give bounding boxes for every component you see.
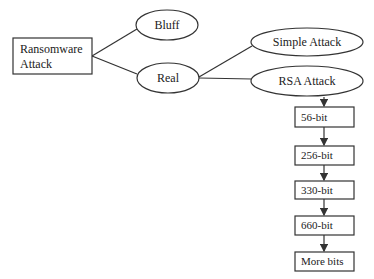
node-real: Real <box>137 63 199 93</box>
node-256-bit-label: 256-bit <box>301 149 333 161</box>
node-simple-attack: Simple Attack <box>251 28 363 56</box>
edge-root-to-real <box>92 56 137 74</box>
edge-root-to-bluff <box>92 29 137 56</box>
ransomware-attack-diagram: Ransomware Attack Bluff Real Simple Atta… <box>0 0 374 279</box>
node-ransomware-line2: Attack <box>20 57 52 71</box>
node-56-bit: 56-bit <box>295 107 354 127</box>
node-330-bit: 330-bit <box>295 181 354 199</box>
node-56-bit-label: 56-bit <box>301 111 327 123</box>
node-bluff: Bluff <box>136 10 198 40</box>
node-ransomware-line1: Ransomware <box>20 42 83 56</box>
node-real-label: Real <box>157 71 180 85</box>
node-bluff-label: Bluff <box>154 18 179 32</box>
node-rsa-attack: RSA Attack <box>251 66 363 96</box>
edge-real-to-simple <box>199 46 252 77</box>
node-more-bits-label: More bits <box>301 255 343 267</box>
node-330-bit-label: 330-bit <box>301 184 333 196</box>
node-rsa-attack-label: RSA Attack <box>278 74 335 88</box>
node-660-bit: 660-bit <box>295 216 354 235</box>
node-simple-attack-label: Simple Attack <box>273 35 341 49</box>
node-ransomware-attack: Ransomware Attack <box>13 38 92 74</box>
edge-real-to-rsa <box>199 78 252 79</box>
node-660-bit-label: 660-bit <box>301 219 333 231</box>
node-more-bits: More bits <box>295 252 354 271</box>
node-256-bit: 256-bit <box>295 146 354 165</box>
